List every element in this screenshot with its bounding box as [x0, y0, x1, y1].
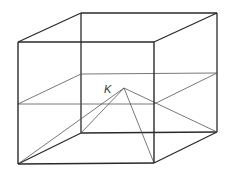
cube-diagram: K — [0, 0, 227, 175]
pyramid-edges — [18, 88, 217, 164]
cube-figure: K — [0, 0, 227, 175]
apex-label-k: K — [104, 83, 112, 95]
mid-section-plane — [18, 73, 217, 104]
cube-depth-edges — [18, 13, 217, 164]
cube-front-face — [18, 42, 154, 164]
